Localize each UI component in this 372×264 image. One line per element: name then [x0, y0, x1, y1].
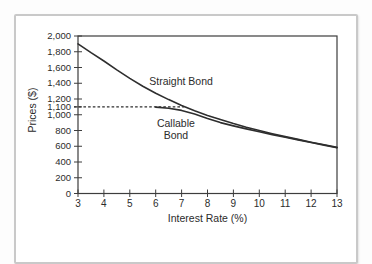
- series-label-straight-bond: Straight Bond: [149, 75, 213, 87]
- series-label-callable: Callable: [157, 117, 195, 129]
- x-axis-tick-label: 4: [101, 198, 107, 209]
- y-axis-tick-label: 600: [55, 140, 71, 151]
- x-axis-tick-label: 8: [205, 198, 211, 209]
- y-axis-tick-label: 1,200: [47, 93, 71, 104]
- x-axis-tick-label: 11: [280, 198, 291, 209]
- x-axis-tick-label: 9: [231, 198, 237, 209]
- x-axis-tick-label: 7: [179, 198, 185, 209]
- x-axis-tick-label: 12: [306, 198, 318, 209]
- series-curve-straight-bond: [78, 44, 337, 147]
- y-axis-tick-label: 400: [55, 156, 71, 167]
- y-axis-tick-label: 200: [55, 172, 71, 183]
- y-axis-tick-label: 1,400: [47, 77, 71, 88]
- x-axis-tick-label: 13: [331, 198, 343, 209]
- y-axis-tick-label: 2,000: [47, 30, 71, 41]
- y-axis-tick-label: 1,800: [47, 46, 71, 57]
- y-axis-tick-label: 800: [55, 125, 71, 136]
- series-label-bond: Bond: [164, 129, 189, 141]
- x-axis-tick-label: 10: [254, 198, 266, 209]
- x-axis-tick-label: 5: [127, 198, 133, 209]
- x-axis-tick-label: 3: [75, 198, 81, 209]
- y-axis-tick-label: 1,600: [47, 62, 71, 73]
- y-axis-title: Prices ($): [26, 88, 38, 133]
- y-axis-tick-label: 0: [66, 188, 71, 199]
- x-axis-title: Interest Rate (%): [168, 212, 247, 224]
- x-axis-tick-label: 6: [153, 198, 159, 209]
